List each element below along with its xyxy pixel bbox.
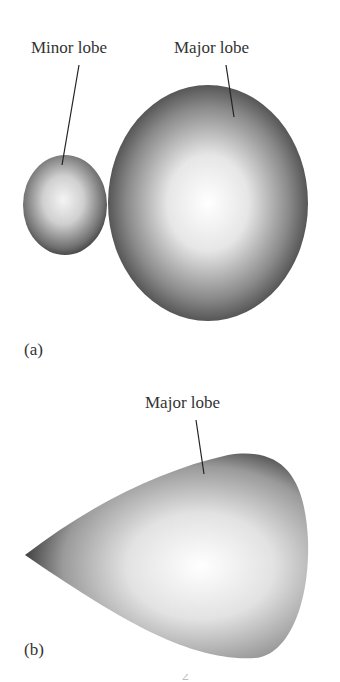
panel-a-tag: (a) — [24, 340, 43, 360]
major-lobe-cone — [25, 454, 308, 659]
lobe-diagram — [0, 0, 340, 682]
major-lobe — [108, 85, 308, 321]
minor-lobe-leader — [62, 65, 79, 165]
minor-lobe-label: Minor lobe — [31, 38, 107, 58]
major-lobe-label-a: Major lobe — [174, 38, 249, 58]
major-lobe-label-b: Major lobe — [145, 393, 220, 413]
panel-b-tag: (b) — [24, 640, 44, 660]
minor-lobe — [23, 155, 107, 255]
cropped-caption-fragment: 2 — [0, 674, 340, 682]
